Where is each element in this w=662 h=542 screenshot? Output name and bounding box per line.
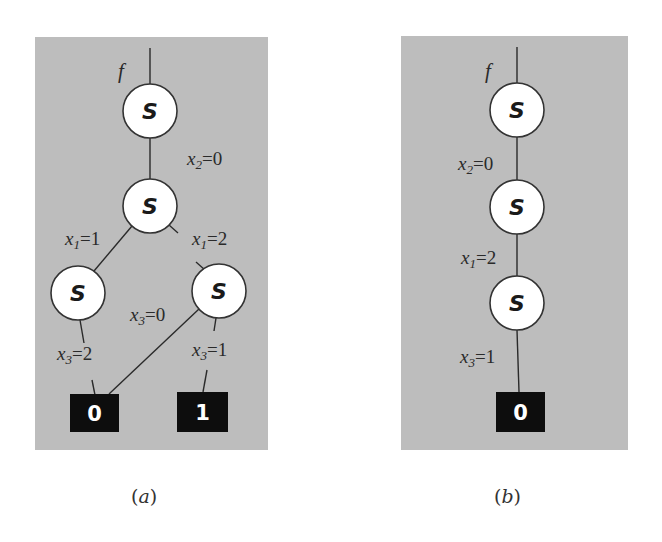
root-label-f: f	[485, 59, 494, 83]
decision-diagram-figure: f S S S S 0 1 x2=0 x1=1 x1=2	[0, 0, 662, 542]
node-s: S	[192, 264, 246, 318]
edge-n3-t0-upper	[80, 320, 84, 343]
edge-n2-n4-upper	[169, 225, 178, 233]
svg-text:S: S	[509, 195, 525, 220]
node-s: S	[490, 83, 544, 137]
svg-text:S: S	[70, 281, 86, 306]
terminal-node-0: 0	[496, 392, 545, 432]
edge-m3-u0	[517, 330, 519, 392]
edge-label: x3=1	[459, 346, 495, 370]
svg-text:1: 1	[195, 401, 210, 425]
edge-label: x1=2	[191, 228, 227, 252]
edge-label: x2=0	[186, 148, 222, 172]
root-label-f: f	[118, 59, 127, 83]
svg-text:S: S	[142, 99, 158, 124]
node-s: S	[490, 180, 544, 234]
svg-text:0: 0	[513, 401, 528, 425]
edge-label: x1=2	[460, 247, 496, 271]
node-s: S	[490, 276, 544, 330]
caption-a: (a)	[131, 485, 157, 507]
caption-b: (b)	[494, 485, 521, 507]
edge-n3-t0-lower	[92, 380, 95, 395]
svg-text:S: S	[509, 98, 525, 123]
node-s: S	[123, 84, 177, 138]
svg-text:S: S	[509, 291, 525, 316]
svg-text:S: S	[211, 279, 227, 304]
node-s: S	[123, 179, 177, 233]
edge-n4-t1-upper	[214, 318, 216, 331]
edge-label: x2=0	[457, 153, 493, 177]
edge-label: x1=1	[64, 228, 100, 252]
svg-text:S: S	[142, 194, 158, 219]
panel-a: f S S S S 0 1 x2=0 x1=1 x1=2	[51, 48, 246, 432]
terminal-node-0: 0	[70, 394, 119, 432]
panel-b: f S S S 0 x2=0 x1=2 x3=1	[457, 47, 545, 432]
edge-label: x3=1	[191, 339, 227, 363]
svg-text:0: 0	[87, 402, 102, 426]
terminal-node-1: 1	[177, 392, 228, 432]
edge-label: x3=0	[129, 304, 165, 328]
node-s: S	[51, 266, 105, 320]
edge-label: x3=2	[56, 343, 92, 367]
edge-n4-t1-lower	[203, 370, 207, 392]
